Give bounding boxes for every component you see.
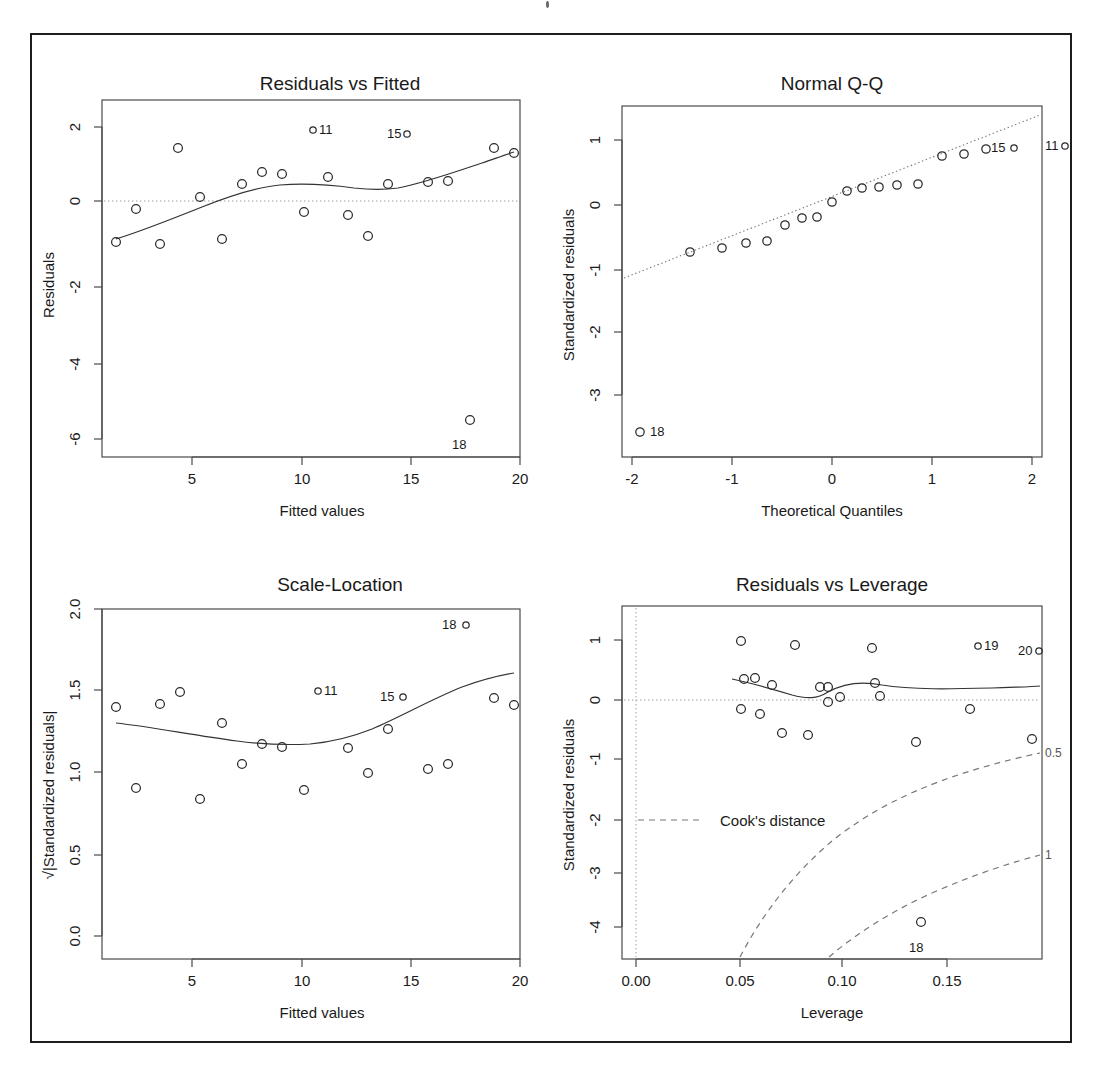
panel4-legend-label: Cook's distance <box>720 812 825 829</box>
figure-frame: Residuals vs Fitted 2 0 -2 -4 -6 Residua… <box>30 33 1072 1043</box>
panel2-label-15-marker <box>1011 145 1017 151</box>
panel1-title: Residuals vs Fitted <box>260 73 421 94</box>
panel1-lowess-curve <box>116 152 514 239</box>
panel1-y-tick-labels: 2 0 -2 -4 -6 <box>66 123 83 446</box>
panel2-ytick-1: 0 <box>586 201 603 209</box>
panel4-label-20: 20 <box>1018 643 1032 658</box>
panel3-y-axis-label: √|Standardized residuals| <box>40 711 57 880</box>
panel4-ytick-0: 1 <box>586 636 603 644</box>
panel2-label-11: 11 <box>1045 138 1059 153</box>
panel2-ytick-2: -1 <box>586 263 603 276</box>
panel1-xtick-2: 15 <box>403 470 420 487</box>
panel1-xtick-1: 10 <box>294 470 311 487</box>
panel3-label-18: 18 <box>442 617 456 632</box>
panel1-xtick-3: 20 <box>512 470 529 487</box>
panel2-y-axis-label: Standardized residuals <box>560 209 577 362</box>
panel4-x-tick-labels: 0.00 0.05 0.10 0.15 <box>621 972 961 989</box>
panel3-label-18-marker <box>463 622 469 628</box>
panel2-x-axis-label: Theoretical Quantiles <box>761 502 903 519</box>
panel2-x-tick-labels: -2 -1 0 1 2 <box>625 470 1036 487</box>
panel4-title: Residuals vs Leverage <box>736 574 928 595</box>
diagnostic-plots-svg: Residuals vs Fitted 2 0 -2 -4 -6 Residua… <box>32 35 1070 1041</box>
panel4-label-20-marker <box>1036 648 1042 654</box>
panel4-x-ticks <box>636 959 947 967</box>
panel1-point-labels: 11 15 18 <box>310 122 467 452</box>
panel2-xtick-3: 1 <box>928 470 936 487</box>
panel3-x-axis-label: Fitted values <box>279 1004 364 1021</box>
panel-normal-qq: Normal Q-Q 1 0 -1 -2 -3 Standardized res… <box>560 73 1068 519</box>
panel2-plot-box <box>622 106 1042 457</box>
panel1-ytick-2: -2 <box>66 280 83 293</box>
panel2-xtick-1: -1 <box>725 470 738 487</box>
panel2-ytick-3: -2 <box>586 325 603 338</box>
panel1-label-11: 11 <box>319 122 333 137</box>
panel1-x-tick-labels: 5 10 15 20 <box>188 470 529 487</box>
panel3-y-tick-labels: 2.0 1.5 1.0 0.5 0.0 <box>66 599 83 947</box>
panel1-y-ticks <box>94 127 102 439</box>
panel3-ytick-0: 2.0 <box>66 599 83 620</box>
panel3-y-ticks <box>94 609 102 936</box>
panel1-label-15-marker <box>404 131 410 137</box>
panel1-x-axis-label: Fitted values <box>279 502 364 519</box>
panel4-xtick-3: 0.15 <box>932 972 961 989</box>
panel1-ytick-0: 2 <box>66 123 83 131</box>
panel4-cooks-distance-legend: Cook's distance <box>638 812 825 829</box>
panel1-plot-box <box>102 100 520 457</box>
panel4-ytick-5: -4 <box>586 920 603 933</box>
panel3-xtick-0: 5 <box>188 972 196 989</box>
panel4-cook-label-0.5: 0.5 <box>1045 746 1062 760</box>
panel1-ytick-1: 0 <box>66 197 83 205</box>
panel4-y-tick-labels: 1 0 -1 -2 -3 -4 <box>586 636 603 934</box>
panel4-xtick-1: 0.05 <box>725 972 754 989</box>
panel2-y-tick-labels: 1 0 -1 -2 -3 <box>586 136 603 402</box>
panel-scale-location: Scale-Location 2.0 1.5 1.0 0.5 0.0 √|Sta… <box>40 574 528 1021</box>
panel2-label-18: 18 <box>650 424 664 439</box>
panel1-label-11-marker <box>310 127 316 133</box>
panel3-title: Scale-Location <box>277 574 403 595</box>
panel3-data-points <box>112 688 519 804</box>
panel4-cook-label-1: 1 <box>1045 848 1052 862</box>
panel4-label-18: 18 <box>909 940 923 955</box>
panel4-point-labels: 19 20 18 <box>909 638 1042 955</box>
panel4-lowess-curve <box>732 679 1040 698</box>
panel3-label-11: 11 <box>324 683 338 698</box>
panel4-label-19-marker <box>975 643 981 649</box>
panel3-xtick-1: 10 <box>294 972 311 989</box>
panel4-cook-contour-1 <box>829 855 1040 957</box>
panel1-y-axis-label: Residuals <box>40 252 57 318</box>
panel2-xtick-0: -2 <box>625 470 638 487</box>
panel4-cook-contour-0.5 <box>740 753 1040 957</box>
panel2-title: Normal Q-Q <box>781 73 883 94</box>
panel2-xtick-2: 0 <box>828 470 836 487</box>
panel4-xtick-0: 0.00 <box>621 972 650 989</box>
panel2-ytick-0: 1 <box>586 136 603 144</box>
panel3-xtick-2: 15 <box>403 972 420 989</box>
panel2-y-ticks <box>614 140 622 395</box>
panel4-ytick-3: -2 <box>586 813 603 826</box>
panel4-y-axis-label: Standardized residuals <box>560 719 577 872</box>
panel-residuals-vs-leverage: Residuals vs Leverage 1 0 -1 -2 -3 -4 St… <box>560 574 1062 1021</box>
panel3-ytick-2: 1.0 <box>66 762 83 783</box>
panel3-ytick-1: 1.5 <box>66 680 83 701</box>
panel1-label-18: 18 <box>452 437 466 452</box>
panel3-label-15: 15 <box>380 689 394 704</box>
panel2-ytick-4: -3 <box>586 388 603 401</box>
panel3-ytick-3: 0.5 <box>66 845 83 866</box>
panel1-ytick-4: -6 <box>66 432 83 445</box>
panel4-plot-box <box>622 606 1042 959</box>
panel4-ytick-4: -3 <box>586 866 603 879</box>
panel1-x-ticks <box>192 457 520 465</box>
panel1-label-15: 15 <box>387 126 401 141</box>
panel3-lowess-curve <box>116 673 514 745</box>
panel-residuals-vs-fitted: Residuals vs Fitted 2 0 -2 -4 -6 Residua… <box>40 73 528 519</box>
panel2-label-15: 15 <box>991 140 1005 155</box>
panel4-ytick-1: 0 <box>586 696 603 704</box>
panel4-xtick-2: 0.10 <box>827 972 856 989</box>
panel2-data-points <box>636 145 990 436</box>
panel3-plot-box <box>102 609 520 959</box>
panel4-data-points <box>737 637 1037 927</box>
panel1-data-points <box>112 144 519 425</box>
panel1-xtick-0: 5 <box>188 470 196 487</box>
panel3-x-ticks <box>192 959 520 967</box>
panel2-point-labels: 15 11 18 <box>650 138 1068 439</box>
